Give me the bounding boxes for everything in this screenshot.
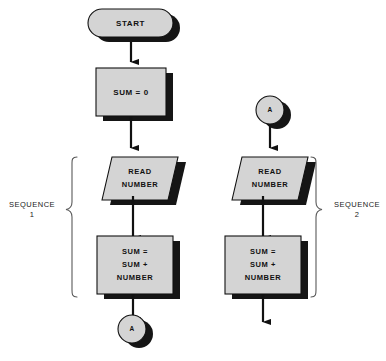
sum-plus-label-right: SUM +	[250, 260, 276, 269]
sum-number-label-right: NUMBER	[245, 273, 282, 282]
connector-a-left-label: A	[129, 325, 134, 332]
read-number-right-shape	[232, 157, 308, 200]
number-label-right: NUMBER	[252, 180, 289, 189]
sum-eq-label-right: SUM =	[250, 247, 276, 256]
node-sum-accumulate-right[interactable]: SUM = SUM + NUMBER	[225, 236, 308, 299]
read-label-right: READ	[258, 167, 282, 176]
read-label-left: READ	[128, 167, 152, 176]
node-read-number-left[interactable]: READ NUMBER	[102, 157, 186, 205]
flowchart-canvas: START SUM = 0 READ NUMBER SUM = SU	[0, 0, 386, 361]
connector-a-right-label: A	[267, 106, 272, 113]
flowchart-svg: START SUM = 0 READ NUMBER SUM = SU	[0, 0, 386, 361]
node-connector-a-right[interactable]: A	[256, 96, 291, 129]
node-start[interactable]: START	[88, 9, 180, 42]
sequence-2-label-line2: 2	[355, 210, 360, 219]
sequence-1-label-line2: 1	[30, 210, 35, 219]
number-label-left: NUMBER	[122, 180, 159, 189]
bracket-sequence-1	[66, 157, 77, 297]
sum-plus-label-left: SUM +	[122, 260, 148, 269]
sum-eq-label-left: SUM =	[122, 247, 148, 256]
node-sum-init[interactable]: SUM = 0	[96, 68, 173, 121]
node-sum-accumulate-left[interactable]: SUM = SUM + NUMBER	[97, 236, 180, 299]
bracket-sequence-2	[311, 157, 322, 297]
node-connector-a-left[interactable]: A	[118, 315, 153, 348]
sum-init-label: SUM = 0	[113, 88, 149, 97]
start-label: START	[116, 19, 145, 28]
read-number-left-shape	[102, 157, 178, 200]
sequence-1-label-line1: SEQUENCE	[9, 200, 55, 209]
sum-number-label-left: NUMBER	[117, 273, 154, 282]
node-read-number-right[interactable]: READ NUMBER	[232, 157, 316, 205]
sequence-2-label-line1: SEQUENCE	[334, 200, 380, 209]
